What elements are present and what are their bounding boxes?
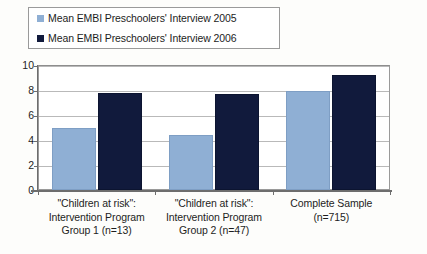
bar — [215, 94, 259, 190]
category-label: Complete Sample(n=715) — [273, 197, 390, 224]
y-tick-label: 4 — [8, 135, 34, 145]
category-label-line: "Children at risk": — [155, 197, 272, 211]
legend-entry-2006: Mean EMBI Preschoolers' Interview 2006 — [29, 28, 279, 48]
y-tick-label: 6 — [8, 110, 34, 120]
bar — [98, 93, 142, 191]
category-label-line: Group 2 (n=47) — [155, 224, 272, 238]
category-label-line: Group 1 (n=13) — [38, 224, 155, 238]
category-label-line: Intervention Program — [38, 211, 155, 225]
legend-label-2006: Mean EMBI Preschoolers' Interview 2006 — [48, 33, 236, 44]
x-axis-tick — [38, 190, 39, 195]
category-label-line: Intervention Program — [155, 211, 272, 225]
category-label-line: "Children at risk": — [38, 197, 155, 211]
bar — [169, 135, 213, 190]
legend-entry-2005: Mean EMBI Preschoolers' Interview 2005 — [29, 8, 279, 28]
category-label: "Children at risk":Intervention ProgramG… — [155, 197, 272, 238]
chart-legend: Mean EMBI Preschoolers' Interview 2005 M… — [28, 7, 280, 49]
x-axis-tick — [273, 190, 274, 195]
x-axis-category-labels: "Children at risk":Intervention ProgramG… — [38, 197, 390, 249]
x-axis-tick — [155, 190, 156, 195]
x-axis-line — [31, 190, 392, 192]
legend-swatch-2005 — [37, 15, 44, 22]
category-label-line: Complete Sample — [273, 197, 390, 211]
bar — [332, 75, 376, 190]
category-label-line: (n=715) — [273, 211, 390, 225]
bar — [286, 91, 330, 190]
y-axis-tick-labels: 0246810 — [6, 65, 34, 190]
y-tick-label: 10 — [8, 60, 34, 70]
bar — [52, 128, 96, 191]
legend-swatch-2006 — [37, 35, 44, 42]
bars-layer — [38, 65, 390, 190]
legend-label-2005: Mean EMBI Preschoolers' Interview 2005 — [48, 13, 236, 24]
x-axis-tick — [390, 190, 391, 195]
y-tick-label: 8 — [8, 85, 34, 95]
category-label: "Children at risk":Intervention ProgramG… — [38, 197, 155, 238]
y-tick-label: 2 — [8, 160, 34, 170]
